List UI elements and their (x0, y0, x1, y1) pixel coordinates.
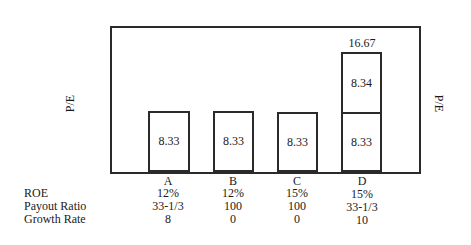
row-growth-b: 0 (203, 212, 263, 227)
row-growth-d: 10 (332, 213, 392, 228)
bar-c: 8.33 (277, 112, 318, 172)
bar-a-value: 8.33 (159, 134, 180, 149)
bar-c-value: 8.33 (287, 135, 308, 150)
bar-d-lower-value: 8.33 (351, 135, 372, 150)
bar-b: 8.33 (213, 111, 254, 172)
bar-d-upper-value: 8.34 (351, 76, 372, 91)
bar-b-value: 8.33 (223, 134, 244, 149)
bar-d-upper: 8.34 (341, 52, 382, 114)
bar-d-total-label: 16.67 (332, 36, 392, 51)
y-axis-label-right: P/E (431, 95, 446, 112)
bar-a: 8.33 (148, 111, 190, 172)
row-growth-c: 0 (267, 212, 327, 227)
y-axis-label-left: P/E (63, 95, 78, 112)
row-label-growth-rate: Growth Rate (24, 212, 86, 227)
bar-d-lower: 8.33 (341, 112, 382, 172)
row-growth-a: 8 (138, 212, 198, 227)
